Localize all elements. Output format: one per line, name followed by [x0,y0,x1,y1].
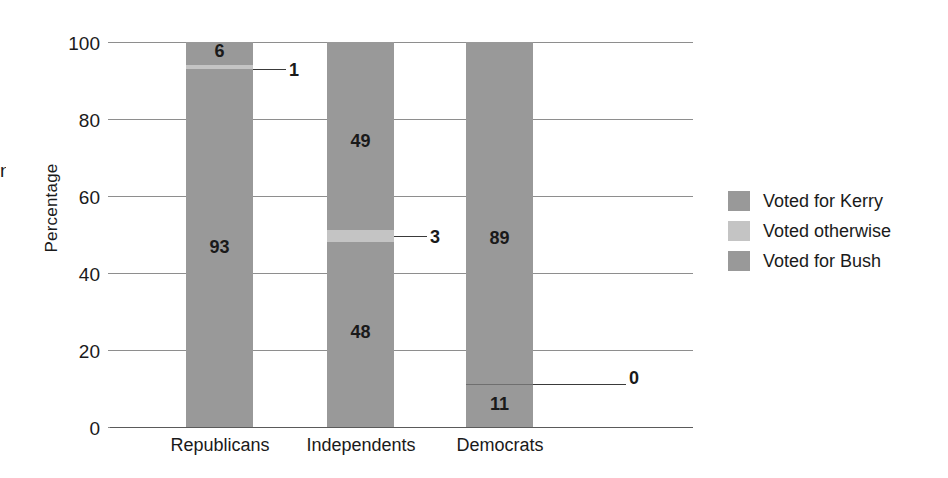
legend-swatch-icon-otherwise [728,221,750,241]
legend-label-bush: Voted for Bush [763,252,881,270]
y-tick-label-100: 100 [48,34,100,53]
y-axis-title: Percentage [42,128,62,288]
bar-label-independents-kerry: 49 [327,132,394,150]
bar-label-democrats-otherwise: 0 [629,369,639,387]
plot-area: 93 6 1 48 49 3 11 89 0 [110,42,693,427]
leader-line-independents-otherwise [394,236,427,237]
bar-independents[interactable]: 48 49 [327,42,394,427]
bar-segment-independents-otherwise[interactable] [327,230,394,242]
legend-swatch-icon-bush [728,251,750,271]
bar-label-republicans-otherwise: 1 [289,61,299,79]
y-tick-label-20: 20 [48,342,100,361]
x-category-label-democrats: Democrats [400,436,600,454]
bar-democrats[interactable]: 11 89 [466,42,533,427]
legend-item-voted-for-bush[interactable]: Voted for Bush [728,246,891,276]
y-tick-label-60: 60 [48,188,100,207]
bar-segment-republicans-otherwise[interactable] [186,65,253,69]
y-tick-label-0: 0 [48,419,100,438]
legend-label-kerry: Voted for Kerry [763,192,883,210]
chart-legend: Voted for Kerry Voted otherwise Voted fo… [728,186,891,276]
bar-segment-democrats-kerry[interactable] [466,42,533,384]
bar-label-democrats-bush: 11 [466,395,533,413]
stacked-bar-chart: n Percentage 100 80 60 40 20 0 93 6 [0,0,948,478]
legend-item-voted-for-kerry[interactable]: Voted for Kerry [728,186,891,216]
legend-item-voted-otherwise[interactable]: Voted otherwise [728,216,891,246]
bar-republicans[interactable]: 93 6 [186,42,253,427]
y-tick-label-40: 40 [48,265,100,284]
legend-label-otherwise: Voted otherwise [763,222,891,240]
leader-line-democrats-otherwise [533,384,626,385]
bar-label-republicans-kerry: 6 [186,42,253,60]
bar-segment-democrats-otherwise[interactable] [466,384,533,385]
clipped-edge-glyph: n [0,160,6,182]
legend-swatch-icon-kerry [728,191,750,211]
leader-line-republicans-otherwise [253,69,286,70]
bar-label-independents-otherwise: 3 [430,228,440,246]
bar-label-democrats-kerry: 89 [466,229,533,247]
y-tick-label-80: 80 [48,111,100,130]
axis-baseline [110,427,693,428]
bar-label-independents-bush: 48 [327,323,394,341]
bar-label-republicans-bush: 93 [186,238,253,256]
